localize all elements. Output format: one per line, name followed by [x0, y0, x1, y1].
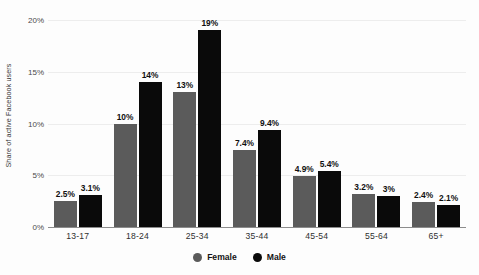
chart-legend: FemaleMale — [0, 252, 479, 262]
bar-group: 2.5%3.1% — [48, 20, 108, 228]
bar-male[interactable] — [318, 171, 341, 227]
x-axis-tick-labels: 13-1718-2425-3435-4445-5455-6465+ — [48, 231, 466, 247]
bar-male[interactable] — [198, 30, 221, 227]
bar-value-label: 3.1% — [81, 183, 100, 193]
bar-group: 4.9%5.4% — [287, 20, 347, 228]
bar-male[interactable] — [437, 205, 460, 227]
bar-female[interactable] — [114, 124, 137, 228]
bar-female[interactable] — [293, 176, 316, 227]
legend-item-female[interactable]: Female — [193, 252, 237, 262]
bar-value-label: 2.4% — [414, 190, 433, 200]
bar-value-label: 2.1% — [439, 193, 458, 203]
legend-label: Male — [267, 252, 286, 262]
bar-female[interactable] — [173, 92, 196, 227]
x-tick-label: 18-24 — [126, 231, 149, 241]
y-tick-label: 10% — [18, 119, 44, 128]
bar-group: 13%19% — [167, 20, 227, 228]
legend-item-male[interactable]: Male — [253, 252, 286, 262]
bar-value-label: 4.9% — [295, 164, 314, 174]
x-tick-label: 55-64 — [365, 231, 388, 241]
bar-male[interactable] — [139, 82, 162, 227]
bar-group: 3.2%3% — [347, 20, 407, 228]
x-tick-label: 25-34 — [186, 231, 209, 241]
y-tick-label: 20% — [18, 16, 44, 25]
bar-value-label: 3.2% — [354, 182, 373, 192]
x-tick-label: 13-17 — [66, 231, 89, 241]
y-tick-label: 15% — [18, 67, 44, 76]
x-tick-label: 65+ — [429, 231, 444, 241]
bar-male[interactable] — [79, 195, 102, 227]
bar-male[interactable] — [258, 130, 281, 227]
bar-value-label: 19% — [201, 18, 218, 28]
bar-group: 7.4%9.4% — [227, 20, 287, 228]
bar-female[interactable] — [54, 201, 77, 227]
bar-female[interactable] — [352, 194, 375, 227]
y-tick-label: 5% — [18, 171, 44, 180]
bar-value-label: 7.4% — [235, 138, 254, 148]
x-tick-label: 35-44 — [246, 231, 269, 241]
y-tick-label: 0% — [18, 223, 44, 232]
legend-label: Female — [207, 252, 237, 262]
bar-value-label: 2.5% — [56, 189, 75, 199]
bar-group: 2.4%2.1% — [406, 20, 466, 228]
bar-group: 10%14% — [108, 20, 168, 228]
bar-value-label: 9.4% — [260, 118, 279, 128]
bar-chart: Share of active Facebook users 20%15%10%… — [0, 0, 479, 275]
bar-value-label: 13% — [176, 80, 193, 90]
bar-value-label: 10% — [117, 112, 134, 122]
legend-swatch-icon — [193, 253, 202, 262]
y-axis-title-text: Share of active Facebook users — [4, 63, 13, 167]
bars-layer: 2.5%3.1%10%14%13%19%7.4%9.4%4.9%5.4%3.2%… — [48, 20, 466, 228]
bar-female[interactable] — [233, 150, 256, 227]
bar-value-label: 14% — [142, 70, 159, 80]
bar-value-label: 5.4% — [320, 159, 339, 169]
plot-area: 2.5%3.1%10%14%13%19%7.4%9.4%4.9%5.4%3.2%… — [48, 20, 466, 228]
bar-value-label: 3% — [383, 184, 395, 194]
bar-male[interactable] — [377, 196, 400, 227]
legend-swatch-icon — [253, 253, 262, 262]
y-axis-tick-labels: 20%15%10%5%0% — [14, 20, 44, 228]
bar-female[interactable] — [412, 202, 435, 227]
x-tick-label: 45-54 — [305, 231, 328, 241]
